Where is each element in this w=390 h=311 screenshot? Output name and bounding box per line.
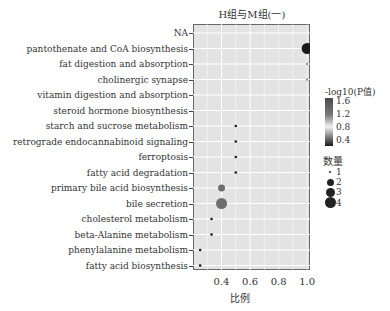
color-bar <box>325 98 333 146</box>
y-axis-label: cholesterol metabolism <box>82 214 188 224</box>
data-point <box>216 198 227 209</box>
y-tick <box>189 33 193 34</box>
y-axis-label: retrograde endocannabinoid signaling <box>13 137 188 147</box>
color-bar-label: 1.2 <box>336 109 350 119</box>
data-point <box>218 185 225 192</box>
y-tick <box>189 250 193 251</box>
y-tick <box>189 49 193 50</box>
y-axis-label: NA <box>174 28 188 38</box>
size-dot-icon <box>326 188 335 197</box>
chart-title: H组与M组(一) <box>192 6 312 21</box>
y-tick <box>189 64 193 65</box>
x-tick-label: 0.4 <box>214 276 230 287</box>
y-axis-label: starch and sucrose metabolism <box>46 121 188 131</box>
y-tick <box>189 80 193 81</box>
size-legend-label: 2 <box>336 177 342 187</box>
data-point <box>302 43 310 54</box>
y-axis-label: steroid hormone biosynthesis <box>53 106 188 116</box>
y-axis-label: pantothenate and CoA biosynthesis <box>26 44 188 54</box>
data-point <box>306 78 309 81</box>
y-axis-label: cholinergic synapse <box>97 75 188 85</box>
y-axis-label: primary bile acid biosynthesis <box>51 183 188 193</box>
x-tick-label: 0.8 <box>271 276 287 287</box>
data-point <box>306 63 309 66</box>
y-tick <box>189 157 193 158</box>
data-point <box>199 264 202 267</box>
size-legend-item: 4 <box>324 197 342 208</box>
y-axis-labels: NApantothenate and CoA biosynthesisfat d… <box>0 24 188 270</box>
data-point <box>199 249 202 252</box>
size-legend-label: 4 <box>336 198 342 208</box>
y-axis-label: beta-Alanine metabolism <box>75 230 188 240</box>
data-point <box>235 171 238 174</box>
y-tick <box>189 266 193 267</box>
size-legend-item: 1 <box>324 167 342 177</box>
data-point <box>235 156 238 159</box>
color-bar-label: 1.6 <box>336 96 350 106</box>
y-axis-label: fat digestion and absorption <box>59 59 188 69</box>
data-point <box>210 218 213 221</box>
y-axis-label: fatty acid degradation <box>87 168 188 178</box>
plot-area <box>193 24 310 270</box>
size-dot-icon <box>327 179 334 186</box>
data-point <box>210 233 213 236</box>
color-bar-label: 0.4 <box>336 135 350 145</box>
y-axis-label: phenylalanine metabolism <box>68 245 188 255</box>
y-tick <box>189 188 193 189</box>
size-dot-icon <box>329 171 332 174</box>
size-legend-item: 3 <box>324 187 342 197</box>
y-axis-label: fatty acid biosynthesis <box>86 261 188 271</box>
y-axis-label: vitamin digestion and absorption <box>37 90 188 100</box>
size-legend-label: 3 <box>336 187 342 197</box>
y-tick <box>189 173 193 174</box>
x-axis-label: 比例 <box>230 290 250 305</box>
size-dot-icon <box>325 197 336 208</box>
y-tick <box>189 95 193 96</box>
size-legend-label: 1 <box>336 167 342 177</box>
x-tick-label: 1.0 <box>299 276 315 287</box>
y-axis-label: ferroptosis <box>138 152 188 162</box>
size-legend-item: 2 <box>324 177 342 187</box>
y-tick <box>189 142 193 143</box>
x-tick-label: 0.6 <box>242 276 258 287</box>
y-axis-label: bile secretion <box>126 199 188 209</box>
data-point <box>235 125 238 128</box>
color-bar-label: 0.8 <box>336 122 350 132</box>
y-tick <box>189 235 193 236</box>
y-tick <box>189 111 193 112</box>
y-tick <box>189 219 193 220</box>
y-tick <box>189 204 193 205</box>
data-point <box>235 140 238 143</box>
y-tick <box>189 126 193 127</box>
size-legend-title: 数量 <box>323 153 343 168</box>
